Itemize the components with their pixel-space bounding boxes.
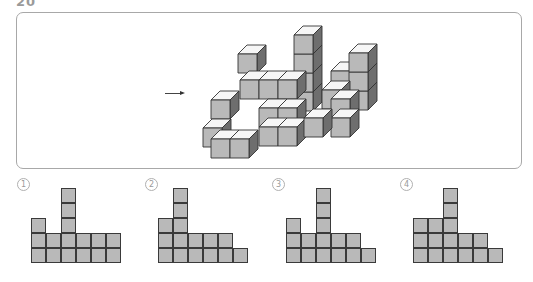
cube: [230, 130, 258, 158]
grid-cell: [488, 248, 503, 263]
grid-cell: [443, 188, 458, 203]
grid-cell: [61, 233, 76, 248]
grid-cell: [443, 203, 458, 218]
grid-cell: [316, 233, 331, 248]
grid-cell: [91, 233, 106, 248]
grid-cell: [458, 248, 473, 263]
grid-cell: [443, 233, 458, 248]
cube: [331, 109, 359, 137]
grid-cell: [331, 248, 346, 263]
grid-cell: [473, 248, 488, 263]
grid-cell: [173, 218, 188, 233]
grid-cell: [188, 233, 203, 248]
grid-cell: [316, 248, 331, 263]
cube: [278, 71, 306, 99]
grid-cell: [428, 248, 443, 263]
grid-cell: [218, 233, 233, 248]
grid-cell: [106, 248, 121, 263]
grid-cell: [233, 248, 248, 263]
grid-cell: [203, 233, 218, 248]
grid-cell: [413, 233, 428, 248]
grid-cell: [61, 248, 76, 263]
grid-cell: [301, 248, 316, 263]
choice-marker-4[interactable]: 4: [400, 178, 413, 191]
grid-cell: [413, 218, 428, 233]
cube: [304, 109, 332, 137]
cube: [238, 45, 266, 73]
grid-cell: [286, 233, 301, 248]
grid-cell: [158, 248, 173, 263]
grid-cell: [188, 248, 203, 263]
choice-marker-2[interactable]: 2: [145, 178, 158, 191]
grid-cell: [413, 248, 428, 263]
grid-cell: [91, 248, 106, 263]
grid-cell: [76, 248, 91, 263]
grid-cell: [61, 188, 76, 203]
grid-cell: [316, 188, 331, 203]
grid-cell: [346, 248, 361, 263]
grid-cell: [158, 218, 173, 233]
grid-cell: [331, 233, 346, 248]
grid-cell: [301, 233, 316, 248]
cube: [211, 91, 239, 119]
grid-cell: [76, 233, 91, 248]
cube: [294, 26, 322, 54]
grid-cell: [286, 218, 301, 233]
grid-cell: [428, 218, 443, 233]
grid-cell: [61, 218, 76, 233]
choice-marker-3[interactable]: 3: [272, 178, 285, 191]
grid-cell: [316, 203, 331, 218]
grid-cell: [218, 248, 233, 263]
grid-cell: [173, 203, 188, 218]
grid-cell: [316, 218, 331, 233]
grid-cell: [31, 248, 46, 263]
grid-cell: [346, 233, 361, 248]
grid-cell: [443, 218, 458, 233]
grid-cell: [203, 248, 218, 263]
grid-cell: [428, 233, 443, 248]
grid-cell: [31, 218, 46, 233]
grid-cell: [46, 248, 61, 263]
grid-cell: [46, 233, 61, 248]
grid-cell: [173, 248, 188, 263]
grid-cell: [458, 233, 473, 248]
grid-cell: [173, 233, 188, 248]
grid-cell: [31, 233, 46, 248]
grid-cell: [158, 233, 173, 248]
choice-marker-1[interactable]: 1: [17, 178, 30, 191]
cube: [278, 118, 306, 146]
grid-cell: [173, 188, 188, 203]
grid-cell: [106, 233, 121, 248]
grid-cell: [473, 233, 488, 248]
grid-cell: [443, 248, 458, 263]
cube: [349, 44, 377, 72]
grid-cell: [361, 248, 376, 263]
grid-cell: [61, 203, 76, 218]
grid-cell: [286, 248, 301, 263]
